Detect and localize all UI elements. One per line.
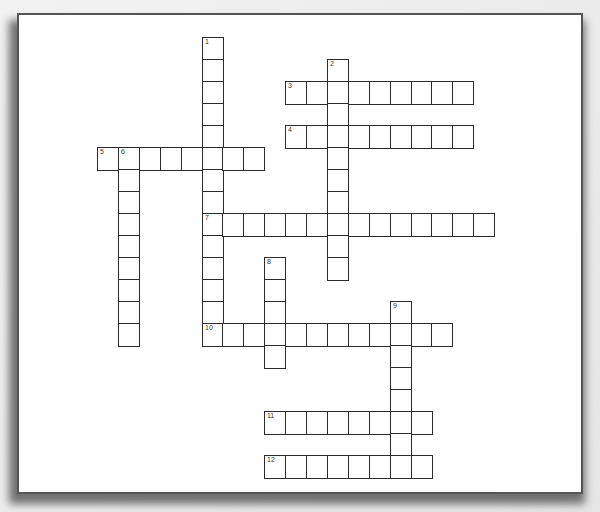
- crossword-cell[interactable]: [327, 411, 349, 435]
- crossword-cell[interactable]: [431, 81, 453, 105]
- crossword-cell[interactable]: [222, 147, 244, 171]
- crossword-cell[interactable]: [348, 455, 370, 479]
- crossword-cell[interactable]: [390, 213, 412, 237]
- crossword-cell[interactable]: [264, 213, 286, 237]
- crossword-cell[interactable]: 7: [202, 213, 224, 237]
- crossword-cell[interactable]: [348, 81, 370, 105]
- crossword-cell[interactable]: [118, 235, 140, 259]
- crossword-cell[interactable]: [202, 257, 224, 281]
- crossword-cell[interactable]: [202, 81, 224, 105]
- crossword-cell[interactable]: [306, 411, 328, 435]
- crossword-cell[interactable]: [327, 191, 349, 215]
- crossword-cell[interactable]: [369, 455, 391, 479]
- crossword-cell[interactable]: [285, 455, 307, 479]
- crossword-cell[interactable]: [348, 213, 370, 237]
- crossword-cell[interactable]: [202, 301, 224, 325]
- crossword-cell[interactable]: [473, 213, 495, 237]
- crossword-cell[interactable]: [118, 169, 140, 193]
- crossword-cell[interactable]: [139, 147, 161, 171]
- crossword-cell[interactable]: [327, 169, 349, 193]
- crossword-cell[interactable]: 5: [97, 147, 119, 171]
- crossword-cell[interactable]: [118, 301, 140, 325]
- crossword-cell[interactable]: [431, 213, 453, 237]
- crossword-cell[interactable]: 1: [202, 37, 224, 61]
- crossword-cell[interactable]: 4: [285, 125, 307, 149]
- crossword-cell[interactable]: [327, 81, 349, 105]
- crossword-cell[interactable]: [118, 213, 140, 237]
- crossword-cell[interactable]: [411, 411, 433, 435]
- crossword-cell[interactable]: 11: [264, 411, 286, 435]
- crossword-cell[interactable]: 6: [118, 147, 140, 171]
- crossword-cell[interactable]: [431, 323, 453, 347]
- crossword-cell[interactable]: [390, 411, 412, 435]
- crossword-cell[interactable]: [202, 279, 224, 303]
- crossword-cell[interactable]: [390, 433, 412, 457]
- crossword-cell[interactable]: [243, 213, 265, 237]
- crossword-cell[interactable]: [285, 323, 307, 347]
- crossword-cell[interactable]: 2: [327, 59, 349, 83]
- crossword-cell[interactable]: [202, 59, 224, 83]
- crossword-cell[interactable]: [243, 147, 265, 171]
- crossword-cell[interactable]: [222, 323, 244, 347]
- crossword-cell[interactable]: [327, 235, 349, 259]
- crossword-cell[interactable]: [452, 213, 474, 237]
- crossword-cell[interactable]: [369, 323, 391, 347]
- crossword-cell[interactable]: [390, 125, 412, 149]
- crossword-cell[interactable]: [202, 169, 224, 193]
- crossword-cell[interactable]: [202, 103, 224, 127]
- crossword-cell[interactable]: [118, 191, 140, 215]
- crossword-cell[interactable]: [452, 81, 474, 105]
- crossword-cell[interactable]: [452, 125, 474, 149]
- crossword-cell[interactable]: [306, 213, 328, 237]
- crossword-cell[interactable]: [411, 323, 433, 347]
- crossword-cell[interactable]: [306, 125, 328, 149]
- crossword-cell[interactable]: [160, 147, 182, 171]
- crossword-cell[interactable]: [327, 125, 349, 149]
- crossword-cell[interactable]: [306, 455, 328, 479]
- crossword-cell[interactable]: 10: [202, 323, 224, 347]
- crossword-cell[interactable]: [390, 389, 412, 413]
- crossword-cell[interactable]: [327, 323, 349, 347]
- crossword-cell[interactable]: [202, 191, 224, 215]
- crossword-cell[interactable]: [390, 455, 412, 479]
- crossword-cell[interactable]: [202, 235, 224, 259]
- crossword-cell[interactable]: [306, 81, 328, 105]
- crossword-cell[interactable]: [118, 323, 140, 347]
- crossword-cell[interactable]: [348, 323, 370, 347]
- crossword-cell[interactable]: [327, 213, 349, 237]
- crossword-cell[interactable]: [431, 125, 453, 149]
- crossword-cell[interactable]: 8: [264, 257, 286, 281]
- crossword-cell[interactable]: [390, 323, 412, 347]
- crossword-cell[interactable]: [222, 213, 244, 237]
- crossword-cell[interactable]: [369, 411, 391, 435]
- crossword-cell[interactable]: [306, 323, 328, 347]
- crossword-cell[interactable]: [327, 257, 349, 281]
- crossword-cell[interactable]: [118, 257, 140, 281]
- crossword-cell[interactable]: [264, 323, 286, 347]
- crossword-cell[interactable]: [118, 279, 140, 303]
- crossword-cell[interactable]: [411, 81, 433, 105]
- crossword-cell[interactable]: 12: [264, 455, 286, 479]
- crossword-cell[interactable]: [327, 103, 349, 127]
- crossword-cell[interactable]: [348, 125, 370, 149]
- crossword-cell[interactable]: [390, 367, 412, 391]
- crossword-cell[interactable]: [264, 279, 286, 303]
- crossword-cell[interactable]: 3: [285, 81, 307, 105]
- crossword-cell[interactable]: [202, 147, 224, 171]
- crossword-cell[interactable]: [264, 345, 286, 369]
- crossword-cell[interactable]: [390, 345, 412, 369]
- crossword-cell[interactable]: [411, 125, 433, 149]
- crossword-cell[interactable]: [369, 213, 391, 237]
- crossword-cell[interactable]: [243, 323, 265, 347]
- crossword-cell[interactable]: 9: [390, 301, 412, 325]
- crossword-cell[interactable]: [369, 125, 391, 149]
- crossword-cell[interactable]: [327, 147, 349, 171]
- crossword-cell[interactable]: [390, 81, 412, 105]
- crossword-cell[interactable]: [202, 125, 224, 149]
- crossword-cell[interactable]: [327, 455, 349, 479]
- crossword-cell[interactable]: [411, 455, 433, 479]
- crossword-cell[interactable]: [264, 301, 286, 325]
- crossword-cell[interactable]: [348, 411, 370, 435]
- crossword-cell[interactable]: [285, 213, 307, 237]
- crossword-cell[interactable]: [285, 411, 307, 435]
